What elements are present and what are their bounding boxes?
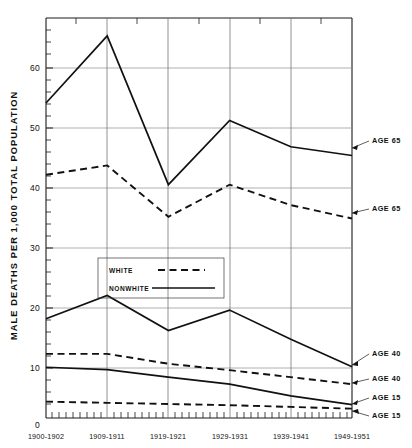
x-tick-label-6: 1949-1951 (334, 432, 370, 441)
y-axis-ticks (46, 30, 53, 404)
y-tick-label-30: 30 (30, 243, 40, 253)
y-axis-title: MALE DEATHS PER 1,000 TOTAL POPULATION (9, 91, 19, 340)
legend: WHITE NONWHITE (98, 258, 224, 298)
chart-container: 60 50 40 30 20 10 0 1900-1902 1909-1911 … (0, 0, 412, 448)
data-series-group (46, 36, 352, 409)
y-tick-label-40: 40 (30, 183, 40, 193)
y-gridlines (46, 68, 352, 368)
y-tick-labels: 60 50 40 30 20 10 0 (30, 63, 40, 430)
x-tick-label-2: 1909-1911 (89, 432, 125, 441)
annotation-age40-white: AGE 40 (372, 374, 401, 383)
x-tick-labels: 1900-1902 1909-1911 1919-1921 1929-1931 … (28, 432, 370, 441)
legend-border (98, 258, 224, 298)
legend-label-white: WHITE (109, 267, 133, 274)
annotation-age15-nonwhite: AGE 15 (372, 393, 401, 402)
y-tick-label-0: 0 (35, 420, 40, 430)
y-tick-label-60: 60 (30, 63, 40, 73)
y-tick-label-10: 10 (30, 363, 40, 373)
line-chart-figure: 60 50 40 30 20 10 0 1900-1902 1909-1911 … (0, 0, 412, 448)
annotations-group: AGE 65 AGE 65 AGE 40 AGE 40 AGE 15 AGE 1… (352, 136, 401, 420)
x-tick-label-5: 1939-1941 (273, 432, 309, 441)
series-white-age-15 (46, 402, 352, 409)
annotation-age40-nonwhite: AGE 40 (372, 349, 401, 358)
x-gridlines (107, 18, 291, 418)
legend-label-nonwhite: NONWHITE (109, 285, 149, 292)
annotation-age15-white: AGE 15 (372, 411, 401, 420)
series-nonwhite-age-40 (46, 296, 352, 367)
arrow-age15-nonwhite (352, 400, 358, 405)
annotation-age65-white: AGE 65 (372, 204, 401, 213)
y-tick-label-20: 20 (30, 303, 40, 313)
arrow-age40-nonwhite (352, 361, 358, 366)
x-tick-label-1: 1900-1902 (28, 432, 64, 441)
plot-frame (46, 18, 352, 418)
annotation-age65-nonwhite: AGE 65 (372, 136, 401, 145)
series-nonwhite-age-15 (46, 367, 352, 404)
y-tick-label-50: 50 (30, 123, 40, 133)
series-white-age-65 (46, 165, 352, 218)
x-tick-label-3: 1919-1921 (150, 432, 186, 441)
x-tick-label-4: 1929-1931 (212, 432, 248, 441)
series-nonwhite-age-65 (46, 36, 352, 185)
x-axis-ticks (52, 18, 347, 418)
